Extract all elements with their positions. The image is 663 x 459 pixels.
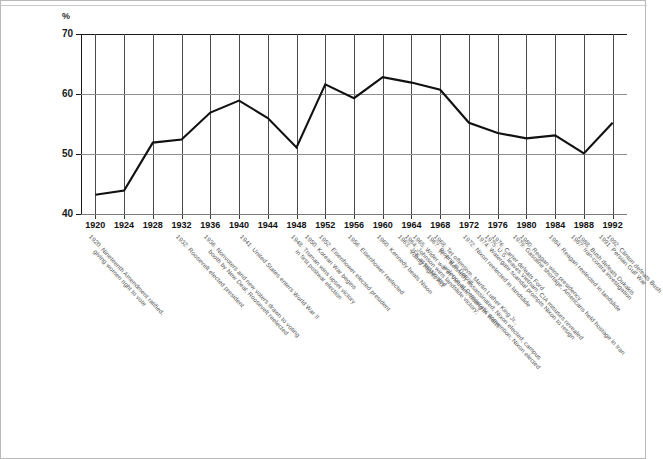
top-rule — [1, 5, 647, 6]
annotation-line: in first postwar election — [284, 238, 352, 310]
y-axis-unit-label: % — [62, 11, 70, 21]
annotation-1984: 1984: Reagan reelected in landslide — [548, 233, 623, 313]
annotation-1936: 1936: Nonvoters and new voters drawn to … — [198, 233, 302, 343]
annotation-line: 1980: Reagan wins presidency — [519, 233, 584, 302]
annotation-1992: 1992: Clinton defeats Bush — [605, 233, 663, 294]
annotation-line: 1965: Wider war in Vietnam; rioting in W… — [411, 233, 501, 329]
x-tick-mark-1984 — [555, 215, 556, 219]
annotation-line: 1920: Nineteenth Amendment ratified, — [88, 233, 167, 317]
annotation-line: 1976: Carter defeats Ford — [490, 233, 545, 292]
annotation-1952: 1952: Eisenhower elected president — [318, 233, 393, 312]
annotation-1980: 1980: Reagan wins presidency — [519, 233, 584, 302]
annotation-1976: 1976: Carter defeats Ford — [490, 233, 545, 292]
annotation-line: 1952: Eisenhower elected president — [318, 233, 393, 312]
annotation-line: 1972: Nixon reelected in landslide — [462, 233, 533, 308]
annotation-line: 1979: Gasoline shortage; Americans held … — [512, 233, 627, 356]
x-tick-mark-1980 — [526, 215, 527, 219]
annotation-line: 1950: Korean War begins — [304, 233, 359, 291]
annotation-line: R. F. Kennedy assassinated; Nixon electe… — [428, 238, 548, 366]
x-tick-mark-1924 — [124, 215, 125, 219]
annotation-line: 1932: Roosevelt elected president — [174, 233, 245, 309]
x-tick-mark-1960 — [383, 215, 384, 219]
annotation-line: 1968: Tet offensive, Martin Luther King … — [433, 233, 553, 361]
annotation-1950: 1950: Korean War begins — [304, 233, 359, 291]
annotation-line: 1941: United States enters World War II — [239, 233, 321, 320]
annotation-line: 1991: Persian Gulf War — [598, 233, 648, 286]
annotation-line: booth by New Deal; Roosevelt reelected — [198, 238, 297, 343]
annotation-1964: 1964: Johnson wins landslide victory;Vot… — [399, 233, 482, 320]
annotation-line: 1963: JFK assassinated — [397, 233, 449, 288]
x-tick-mark-1932 — [182, 215, 183, 219]
x-tick-mark-1940 — [239, 215, 240, 219]
x-tick-mark-1956 — [354, 215, 355, 219]
annotation-1975: 1975: U.S. leaves Vietnam; CIA misuses r… — [483, 233, 585, 341]
annotation-1974: 1974: Watergate scandal prompts Nixon to… — [476, 233, 577, 341]
x-tick-mark-1944 — [268, 215, 269, 219]
annotation-1920: 1920: Nineteenth Amendment ratified,givi… — [83, 233, 167, 321]
annotation-line: giving women right to vote — [83, 238, 162, 322]
x-tick-mark-1964 — [411, 215, 412, 219]
x-tick-mark-1976 — [498, 215, 499, 219]
annotation-line: 1984: Reagan reelected in landslide — [548, 233, 623, 313]
annotation-1965: 1965: Wider war in Vietnam; rioting in W… — [411, 233, 501, 329]
annotation-line: 1974: Watergate scandal prompts Nixon to… — [476, 233, 577, 341]
annotation-1967: 1967: Rioting in Detroit — [426, 233, 476, 286]
turnout-line-series — [81, 34, 627, 214]
x-tick-mark-1972 — [469, 215, 470, 219]
annotation-line: 1964: Johnson wins landslide victory; — [404, 233, 481, 315]
annotation-line: 1936: Nonvoters and new voters drawn to … — [203, 233, 302, 338]
annotation-line: 1988: Bush defeats Dukakis — [577, 233, 637, 296]
y-tick-label-70: 70 — [49, 28, 73, 39]
annotation-line: 1987: Iran-contra investigation — [569, 233, 633, 301]
y-tick-label-40: 40 — [49, 208, 73, 219]
x-tick-mark-1992 — [613, 215, 614, 219]
y-tick-label-60: 60 — [49, 88, 73, 99]
annotation-line: 1960: Kennedy beats Nixon — [375, 233, 434, 295]
annotation-line: violence at Democratic convention; Nixon… — [422, 243, 542, 371]
annotation-1948: 1948: Truman wins upset victoryin first … — [284, 233, 357, 310]
annotation-line: 1948: Truman wins upset victory — [289, 233, 357, 305]
annotation-1972: 1972: Nixon reelected in landslide — [462, 233, 533, 308]
plot-area — [81, 34, 627, 214]
annotation-1960: 1960: Kennedy beats Nixon — [375, 233, 434, 295]
annotation-line: 1975: U.S. leaves Vietnam; CIA misuses r… — [483, 233, 585, 341]
annotation-1987: 1987: Iran-contra investigation — [569, 233, 633, 301]
annotation-1968: 1968: Tet offensive, Martin Luther King … — [422, 233, 552, 371]
annotation-1991: 1991: Persian Gulf War — [598, 233, 648, 286]
y-tick-label-50: 50 — [49, 148, 73, 159]
x-tick-mark-1936 — [210, 215, 211, 219]
x-tick-label-1992: 1992 — [593, 220, 633, 230]
annotation-1979: 1979: Gasoline shortage; Americans held … — [512, 233, 627, 356]
annotation-1932: 1932: Roosevelt elected president — [174, 233, 245, 309]
x-tick-mark-1952 — [325, 215, 326, 219]
x-tick-mark-1920 — [95, 215, 96, 219]
annotation-1988: 1988: Bush defeats Dukakis — [577, 233, 637, 296]
annotation-1956: 1956: Eisenhower reelected — [347, 233, 406, 296]
annotation-line: Voting Rights Act — [399, 238, 476, 320]
annotation-line: 1992: Clinton defeats Bush — [605, 233, 663, 294]
annotation-1963: 1963: JFK assassinated — [397, 233, 449, 288]
annotation-line: 1967: Rioting in Detroit — [426, 233, 476, 286]
annotation-1941: 1941: United States enters World War II — [239, 233, 321, 320]
x-tick-mark-1988 — [584, 215, 585, 219]
x-tick-mark-1968 — [440, 215, 441, 219]
x-tick-mark-1948 — [297, 215, 298, 219]
x-tick-mark-1928 — [153, 215, 154, 219]
annotation-line: 1956: Eisenhower reelected — [347, 233, 406, 296]
